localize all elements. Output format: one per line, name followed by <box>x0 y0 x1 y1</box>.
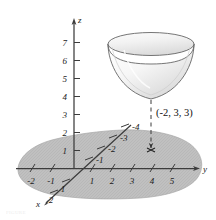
y-tick-label-neg-2: -2 <box>27 176 35 186</box>
y-tick-label-5: 5 <box>170 176 175 186</box>
z-tick-label-1: 1 <box>63 146 68 156</box>
figure-canvas: 1 2 3 4 5 6 7 z 1 2 3 4 <box>0 0 216 220</box>
z-axis-label: z <box>77 15 82 25</box>
z-tick-label-6: 6 <box>63 56 68 66</box>
point-coordinate-label: (-2, 3, 3) <box>156 107 193 119</box>
x-tick-label-neg-1: -1 <box>96 155 104 165</box>
paraboloid-bowl <box>108 33 194 100</box>
x-axis-label: x <box>35 199 40 209</box>
y-tick-label-4: 4 <box>150 176 155 186</box>
x-tick-label-neg-3: -3 <box>120 133 128 143</box>
z-tick-label-4: 4 <box>63 92 68 102</box>
z-tick-label-2: 2 <box>63 128 68 138</box>
x-tick-label-neg-4: -4 <box>132 122 140 132</box>
y-tick-label-2: 2 <box>110 176 115 186</box>
y-tick-label-neg-1: -1 <box>47 176 55 186</box>
z-tick-label-3: 3 <box>62 110 68 120</box>
x-tick-neg-4 <box>121 124 129 127</box>
math-figure-3d-coordinate-system: 1 2 3 4 5 6 7 z 1 2 3 4 <box>0 0 216 220</box>
x-tick-label-neg-2: -2 <box>108 144 116 154</box>
figure-caption: FIGURE <box>6 210 92 215</box>
z-tick-label-7: 7 <box>63 38 68 48</box>
x-tick-label-2: 2 <box>49 195 54 205</box>
z-tick-label-5: 5 <box>63 74 68 84</box>
y-tick-label-1: 1 <box>90 176 95 186</box>
y-tick-label-3: 3 <box>129 176 135 186</box>
x-tick-label-1: 1 <box>61 184 66 194</box>
bowl-rim-opening <box>108 33 194 56</box>
y-axis-label: y <box>202 164 207 174</box>
